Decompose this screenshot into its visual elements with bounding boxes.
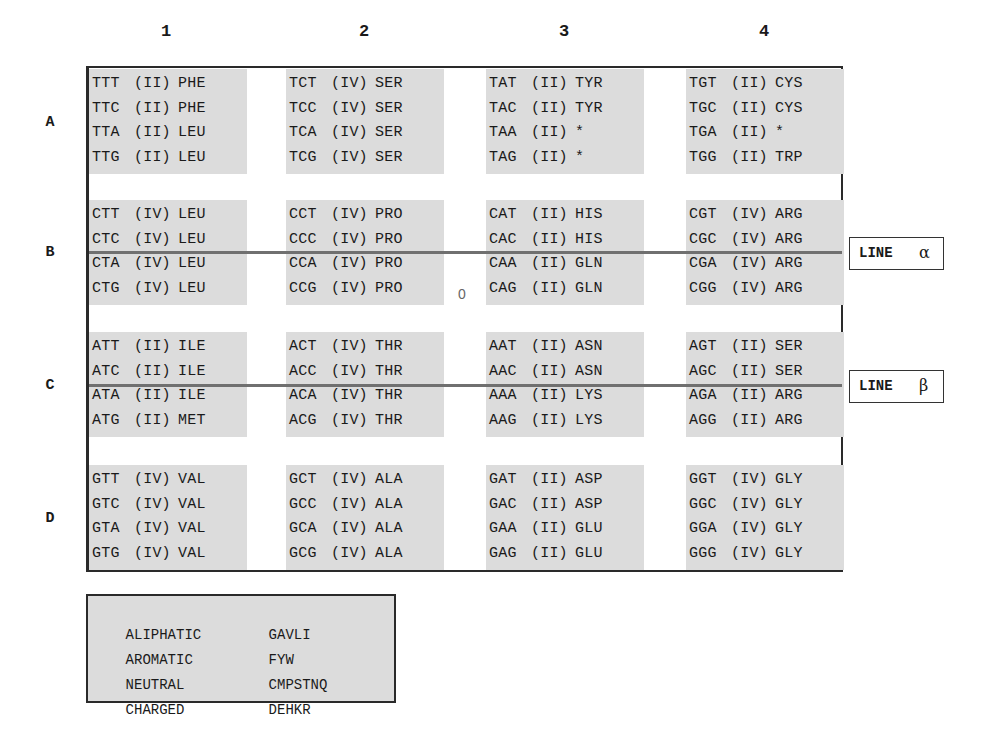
codon-triplet: CAC <box>489 228 531 252</box>
codon-block-a3: TAT(II)TYRTAC(II)TYRTAA(II)*TAG(II)* <box>486 69 644 174</box>
degeneracy-class: (IV) <box>331 335 375 359</box>
degeneracy-class: (IV) <box>134 493 178 517</box>
amino-acid: ILE <box>178 384 238 408</box>
codon-triplet: GCT <box>289 468 331 492</box>
codon-triplet: AGC <box>689 360 731 384</box>
amino-acid: THR <box>375 360 435 384</box>
line-beta-label: LINE β <box>849 370 944 403</box>
degeneracy-class: (II) <box>531 517 575 541</box>
codon-triplet: ATC <box>92 360 134 384</box>
codon-triplet: CCG <box>289 277 331 301</box>
codon-entry: ACT(IV)THR <box>289 335 435 359</box>
legend-row: AROMATICFYW <box>92 624 294 648</box>
codon-entry: TTG(II)LEU <box>92 146 238 170</box>
amino-acid: GLY <box>775 542 835 566</box>
codon-triplet: GAC <box>489 493 531 517</box>
codon-triplet: GGC <box>689 493 731 517</box>
degeneracy-class: (IV) <box>331 517 375 541</box>
codon-triplet: TAC <box>489 97 531 121</box>
line-alpha-text: LINE <box>859 238 893 268</box>
degeneracy-class: (IV) <box>331 228 375 252</box>
column-header-2: 2 <box>344 22 384 41</box>
amino-acid: LEU <box>178 146 238 170</box>
amino-acid: ALA <box>375 517 435 541</box>
codon-entry: GGG(IV)GLY <box>689 542 835 566</box>
codon-triplet: AAG <box>489 409 531 433</box>
degeneracy-class: (IV) <box>331 203 375 227</box>
codon-triplet: GCG <box>289 542 331 566</box>
degeneracy-class: (II) <box>531 146 575 170</box>
column-header-1: 1 <box>146 22 186 41</box>
codon-block-d1: GTT(IV)VALGTC(IV)VALGTA(IV)VALGTG(IV)VAL <box>89 465 247 570</box>
codon-entry: CAA(II)GLN <box>489 252 635 276</box>
codon-triplet: ACT <box>289 335 331 359</box>
codon-triplet: CCT <box>289 203 331 227</box>
codon-block-a2: TCT(IV)SERTCC(IV)SERTCA(IV)SERTCG(IV)SER <box>286 69 444 174</box>
degeneracy-class: (II) <box>134 72 178 96</box>
amino-acid: TYR <box>575 72 635 96</box>
degeneracy-class: (IV) <box>331 277 375 301</box>
codon-entry: TAG(II)* <box>489 146 635 170</box>
degeneracy-class: (IV) <box>134 252 178 276</box>
codon-entry: CCA(IV)PRO <box>289 252 435 276</box>
codon-entry: ATT(II)ILE <box>92 335 238 359</box>
codon-entry: CTG(IV)LEU <box>92 277 238 301</box>
amino-acid: SER <box>775 360 835 384</box>
amino-acid-class-legend: ALIPHATICGAVLI AROMATICFYW NEUTRALCMPSTN… <box>86 594 396 703</box>
amino-acid: VAL <box>178 517 238 541</box>
row-header-c: C <box>40 377 60 394</box>
codon-entry: ATC(II)ILE <box>92 360 238 384</box>
degeneracy-class: (II) <box>531 72 575 96</box>
beta-symbol: β <box>919 371 928 401</box>
codon-triplet: GGG <box>689 542 731 566</box>
codon-triplet: TTC <box>92 97 134 121</box>
codon-block-a1: TTT(II)PHETTC(II)PHETTA(II)LEUTTG(II)LEU <box>89 69 247 174</box>
codon-triplet: TAA <box>489 121 531 145</box>
codon-triplet: GAA <box>489 517 531 541</box>
degeneracy-class: (II) <box>134 121 178 145</box>
amino-acid: LEU <box>178 277 238 301</box>
codon-entry: GAA(II)GLU <box>489 517 635 541</box>
degeneracy-class: (II) <box>134 97 178 121</box>
codon-entry: GCA(IV)ALA <box>289 517 435 541</box>
amino-acid: ARG <box>775 228 835 252</box>
codon-triplet: GCA <box>289 517 331 541</box>
degeneracy-class: (IV) <box>331 146 375 170</box>
codon-entry: GCG(IV)ALA <box>289 542 435 566</box>
amino-acid: ARG <box>775 277 835 301</box>
degeneracy-class: (II) <box>531 228 575 252</box>
codon-triplet: GCC <box>289 493 331 517</box>
amino-acid: ALA <box>375 493 435 517</box>
amino-acid: LEU <box>178 228 238 252</box>
column-header-4: 4 <box>744 22 784 41</box>
amino-acid: PHE <box>178 72 238 96</box>
codon-entry: TTA(II)LEU <box>92 121 238 145</box>
codon-entry: ATA(II)ILE <box>92 384 238 408</box>
codon-entry: AGC(II)SER <box>689 360 835 384</box>
codon-triplet: CGA <box>689 252 731 276</box>
amino-acid: LEU <box>178 203 238 227</box>
codon-entry: ACA(IV)THR <box>289 384 435 408</box>
degeneracy-class: (IV) <box>331 97 375 121</box>
amino-acid: HIS <box>575 228 635 252</box>
codon-triplet: TCT <box>289 72 331 96</box>
codon-entry: CAC(II)HIS <box>489 228 635 252</box>
codon-triplet: TGT <box>689 72 731 96</box>
alpha-symbol: α <box>919 238 930 268</box>
degeneracy-class: (IV) <box>331 542 375 566</box>
codon-entry: GCC(IV)ALA <box>289 493 435 517</box>
degeneracy-class: (IV) <box>731 228 775 252</box>
codon-entry: CGA(IV)ARG <box>689 252 835 276</box>
degeneracy-class: (IV) <box>331 121 375 145</box>
column-header-3: 3 <box>544 22 584 41</box>
amino-acid: MET <box>178 409 238 433</box>
codon-triplet: ACG <box>289 409 331 433</box>
codon-triplet: GAG <box>489 542 531 566</box>
codon-entry: AGA(II)ARG <box>689 384 835 408</box>
degeneracy-class: (II) <box>731 121 775 145</box>
amino-acid: ALA <box>375 542 435 566</box>
codon-triplet: TCA <box>289 121 331 145</box>
codon-entry: GTG(IV)VAL <box>92 542 238 566</box>
codon-entry: ACG(IV)THR <box>289 409 435 433</box>
amino-acid: ARG <box>775 252 835 276</box>
